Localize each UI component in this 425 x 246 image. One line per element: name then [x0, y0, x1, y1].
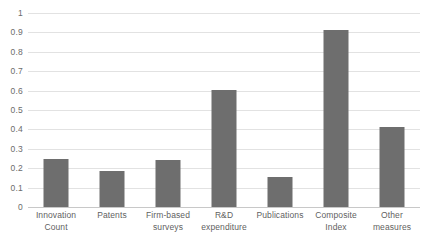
y-axis-tick-label: 1 [18, 8, 23, 18]
x-axis-tick-label: InnovationCount [28, 210, 84, 233]
x-axis-tick-label: R&Dexpenditure [196, 210, 252, 233]
plot-area [28, 13, 420, 207]
y-axis-tick-labels: 10.90.80.70.60.50.40.30.20.10 [0, 0, 26, 246]
bar-slot [140, 13, 196, 207]
bar-chart: 10.90.80.70.60.50.40.30.20.10 Innovation… [0, 0, 425, 246]
x-axis-tick-label-line: Count [28, 222, 84, 234]
x-axis-tick-label-line: Composite [308, 210, 364, 222]
bar-slot [196, 13, 252, 207]
bar[interactable] [44, 159, 69, 208]
bar-slot [28, 13, 84, 207]
x-axis-tick-label-line: Patents [84, 210, 140, 222]
bar[interactable] [212, 90, 237, 207]
bar[interactable] [156, 160, 181, 207]
y-axis-tick-label: 0.6 [11, 86, 23, 96]
y-axis-tick-label: 0.3 [11, 144, 23, 154]
x-axis-tick-label-line: expenditure [196, 222, 252, 234]
bar-slot [308, 13, 364, 207]
x-axis-tick-label: Patents [84, 210, 140, 222]
x-axis-tick-label: Firm-basedsurveys [140, 210, 196, 233]
x-axis-tick-label: Publications [252, 210, 308, 222]
y-axis-tick-label: 0.7 [11, 66, 23, 76]
y-axis-tick-label: 0.9 [11, 27, 23, 37]
y-axis-tick-label: 0.8 [11, 47, 23, 57]
y-axis-tick-label: 0.4 [11, 124, 23, 134]
y-axis-tick-label: 0.1 [11, 183, 23, 193]
x-axis-tick-label-line: R&D [196, 210, 252, 222]
x-axis-tick-label: CompositeIndex [308, 210, 364, 233]
bar[interactable] [268, 177, 293, 207]
y-axis-tick-label: 0 [18, 202, 23, 212]
bars-layer [28, 13, 420, 207]
bar[interactable] [324, 30, 349, 207]
axis-baseline [28, 207, 420, 208]
x-axis-tick-label: Othermeasures [364, 210, 420, 233]
x-axis-tick-label-line: Publications [252, 210, 308, 222]
bar-slot [364, 13, 420, 207]
x-axis-tick-label-line: surveys [140, 222, 196, 234]
x-axis-tick-label-line: Index [308, 222, 364, 234]
x-axis-tick-label-line: Firm-based [140, 210, 196, 222]
x-axis-tick-label-line: Other [364, 210, 420, 222]
bar[interactable] [380, 127, 405, 207]
bar-slot [84, 13, 140, 207]
y-axis-tick-label: 0.5 [11, 105, 23, 115]
x-axis-tick-label-line: Innovation [28, 210, 84, 222]
bar-slot [252, 13, 308, 207]
x-axis-tick-labels: InnovationCountPatentsFirm-basedsurveysR… [28, 210, 420, 246]
x-axis-tick-label-line: measures [364, 222, 420, 234]
y-axis-tick-label: 0.2 [11, 163, 23, 173]
bar[interactable] [100, 171, 125, 207]
